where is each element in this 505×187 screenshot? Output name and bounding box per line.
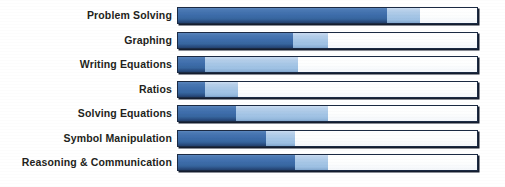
- bar-track: [177, 32, 478, 49]
- category-label: Solving Equations: [0, 105, 172, 122]
- bar-track: [177, 81, 478, 98]
- bar-segment-dark: [178, 33, 293, 48]
- category-label: Symbol Manipulation: [0, 130, 172, 147]
- bar-track: [177, 7, 478, 24]
- chart-row: Problem Solving: [0, 7, 505, 24]
- bar-segment-dark: [178, 155, 295, 170]
- category-label: Graphing: [0, 32, 172, 49]
- chart-rows: Problem Solving Graphing Writing Equatio…: [0, 0, 505, 187]
- category-label: Problem Solving: [0, 7, 172, 24]
- bar-segment-dark: [178, 106, 236, 121]
- bar-segment-dark: [178, 82, 205, 97]
- bar-track: [177, 105, 478, 122]
- stacked-bar-chart: Problem Solving Graphing Writing Equatio…: [0, 0, 505, 187]
- bar-segment-dark: [178, 8, 387, 23]
- bar-track: [177, 154, 478, 171]
- category-label: Writing Equations: [0, 56, 172, 73]
- chart-row: Writing Equations: [0, 56, 505, 73]
- category-label: Reasoning & Communication: [0, 154, 172, 171]
- chart-row: Reasoning & Communication: [0, 154, 505, 171]
- chart-row: Graphing: [0, 32, 505, 49]
- chart-row: Solving Equations: [0, 105, 505, 122]
- bar-track: [177, 130, 478, 147]
- bar-segment-dark: [178, 57, 205, 72]
- chart-row: Symbol Manipulation: [0, 130, 505, 147]
- category-label: Ratios: [0, 81, 172, 98]
- bar-segment-dark: [178, 131, 266, 146]
- bar-track: [177, 56, 478, 73]
- chart-row: Ratios: [0, 81, 505, 98]
